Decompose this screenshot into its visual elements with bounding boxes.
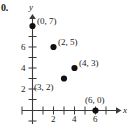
point-label-6-0: (6, 0) (85, 96, 105, 105)
axes-svg (0, 0, 130, 130)
point-label-2-5: (2, 5) (58, 38, 78, 47)
graph-figure: 0. (0, 0, 130, 130)
data-point-marker (61, 75, 67, 81)
data-point-marker (92, 107, 98, 113)
data-point-marker (50, 44, 56, 50)
point-label-0-7: (0, 7) (37, 17, 57, 26)
x-tick-label-4: 4 (72, 115, 77, 124)
y-axis-label: y (29, 3, 33, 12)
y-tick-label-2: 2 (21, 85, 26, 94)
y-tick-label-4: 4 (21, 64, 26, 73)
point-label-4-3: (4, 3) (79, 59, 99, 68)
x-axis-arrowhead (116, 107, 122, 114)
point-label-3-2: (3, 2) (34, 83, 54, 92)
data-point-marker (71, 65, 77, 71)
coordinate-plane: y x 2 4 6 2 4 6 (0, 7) (2, 5) (4, 3) (3,… (0, 0, 130, 130)
y-tick-label-6: 6 (21, 43, 26, 52)
x-axis-label: x (123, 106, 127, 115)
x-tick-label-2: 2 (51, 115, 56, 124)
x-tick-label-6: 6 (93, 115, 98, 124)
data-point-marker (29, 23, 35, 29)
y-axis-arrowhead (29, 14, 36, 19)
